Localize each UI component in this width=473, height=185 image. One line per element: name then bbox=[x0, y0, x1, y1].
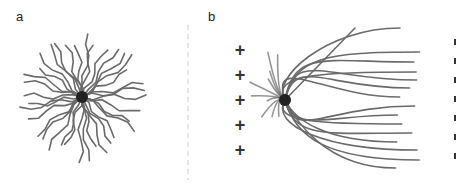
minus-tick bbox=[454, 134, 456, 140]
process bbox=[285, 71, 417, 100]
plus-sign: + bbox=[235, 141, 246, 159]
process bbox=[285, 100, 397, 120]
plus-sign: + bbox=[235, 66, 246, 84]
soma bbox=[76, 91, 88, 103]
plus-sign: + bbox=[235, 116, 246, 134]
minus-tick bbox=[454, 58, 456, 64]
minus-tick bbox=[454, 39, 456, 45]
process bbox=[285, 100, 397, 142]
minus-tick bbox=[454, 96, 456, 102]
process bbox=[283, 72, 417, 100]
process bbox=[82, 50, 108, 97]
minus-tick bbox=[454, 77, 456, 83]
radial-cell bbox=[20, 34, 146, 162]
oriented-cell bbox=[250, 28, 419, 168]
plus-sign: + bbox=[235, 41, 246, 59]
plus-sign: + bbox=[235, 91, 246, 109]
soma bbox=[279, 94, 291, 106]
minus-tick bbox=[454, 115, 456, 121]
minus-tick bbox=[454, 153, 456, 159]
